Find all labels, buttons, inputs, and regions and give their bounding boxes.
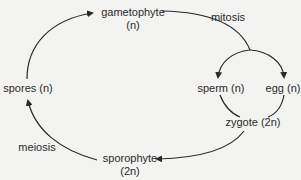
line-egg-to-zygote [268,95,284,117]
node-spores: spores (n) [3,82,53,95]
arrow-to-egg [250,50,284,77]
sporophyte-label: sporophyte [103,152,157,164]
process-mitosis: mitosis [211,11,245,24]
arrow-zygote-to-sporophyte [157,131,244,159]
gametophyte-label: gametophyte [101,6,165,18]
gametophyte-ploidy: (n) [101,19,165,32]
node-sporophyte: sporophyte (2n) [103,152,157,178]
node-gametophyte: gametophyte (n) [101,6,165,32]
process-meiosis: meiosis [18,141,55,154]
sporophyte-ploidy: (2n) [103,165,157,178]
line-sperm-to-zygote [220,95,240,117]
node-sperm: sperm (n) [197,82,244,95]
node-egg: egg (n) [266,82,301,95]
arrow-to-sperm [218,50,250,77]
life-cycle-diagram: gametophyte (n) mitosis spores (n) sperm… [0,0,301,180]
node-zygote: zygote (2n) [225,116,280,129]
arrow-spores-to-gametophyte [27,13,92,79]
